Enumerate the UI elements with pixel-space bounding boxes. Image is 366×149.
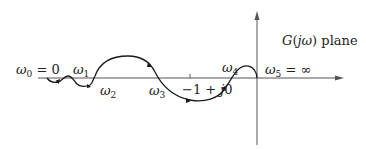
- omega-symbol: ω: [149, 83, 160, 98]
- plane-label-suffix: plane: [321, 33, 357, 48]
- omega-symbol: ω: [16, 62, 27, 77]
- imaginary-axis-arrow-icon: [255, 11, 260, 20]
- omega-value: = 0: [32, 62, 59, 77]
- omega-symbol: ω: [222, 60, 233, 75]
- omega4-label: ω4: [222, 61, 238, 77]
- omega5-label: ω5 = ∞: [265, 63, 311, 79]
- critical-point-label: −1 + j0: [182, 83, 233, 96]
- plane-label: G(jω) plane: [282, 34, 358, 47]
- omega-symbol: ω: [265, 62, 276, 77]
- omega-subscript: 1: [84, 69, 90, 79]
- plane-label-func: G: [282, 33, 292, 48]
- critical-point-prefix: −1 +: [182, 82, 220, 97]
- omega-subscript: 4: [233, 67, 239, 77]
- omega-subscript: 2: [111, 90, 117, 100]
- real-axis-arrow-icon: [335, 76, 344, 81]
- omega-subscript: 3: [160, 90, 166, 100]
- omega-symbol: ω: [73, 62, 84, 77]
- omega0-label: ω0 = 0: [16, 63, 60, 79]
- omega-symbol: ω: [100, 83, 111, 98]
- critical-point-suffix: 0: [224, 82, 232, 97]
- omega-value: = ∞: [281, 62, 311, 77]
- omega3-label: ω3: [149, 84, 165, 100]
- plane-label-arg: jω: [297, 33, 312, 48]
- omega1-label: ω1: [73, 63, 89, 79]
- omega2-label: ω2: [100, 84, 116, 100]
- nyquist-diagram: G(jω) plane ω0 = 0 ω1 ω2 ω3 −1 + j0 ω4 ω…: [0, 0, 366, 149]
